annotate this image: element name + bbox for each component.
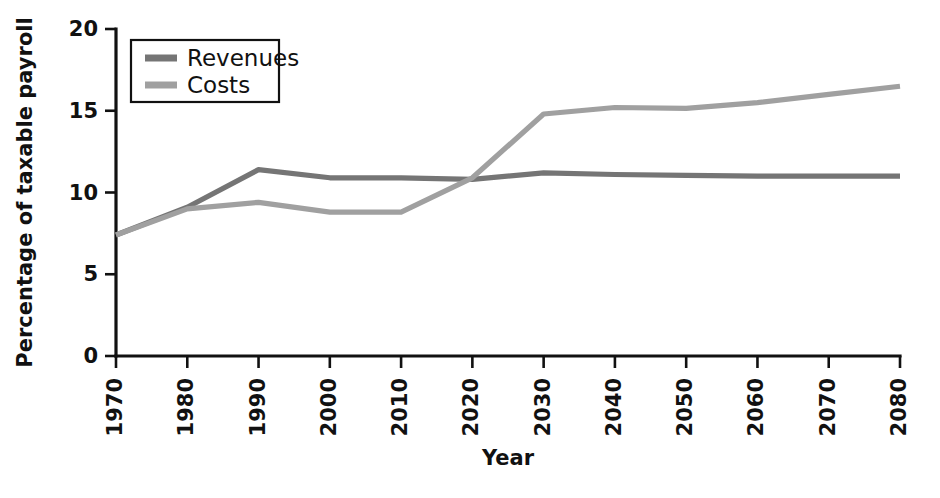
x-tick-label-2080: 2080 xyxy=(887,378,911,436)
x-tick-label-2030: 2030 xyxy=(531,378,555,436)
x-tick-label-1970: 1970 xyxy=(103,378,127,436)
x-tick-label-2050: 2050 xyxy=(673,378,697,436)
x-tick-label-2010: 2010 xyxy=(388,378,412,436)
x-tick-label-2070: 2070 xyxy=(816,378,840,436)
y-tick-label-10: 10 xyxy=(69,181,98,205)
x-tick-label-2020: 2020 xyxy=(459,378,483,436)
chart-legend: RevenuesCosts xyxy=(131,40,299,102)
series-lines xyxy=(116,86,900,235)
y-tick-label-20: 20 xyxy=(69,17,98,41)
x-tick-label-1980: 1980 xyxy=(174,378,198,436)
x-axis-group: 1970198019902000201020202030204020502060… xyxy=(103,356,911,436)
y-tick-label-15: 15 xyxy=(69,99,98,123)
x-axis-ticks: 1970198019902000201020202030204020502060… xyxy=(103,356,911,436)
y-axis-ticks: 05101520 xyxy=(69,17,116,368)
x-tick-label-2040: 2040 xyxy=(602,378,626,436)
y-tick-label-0: 0 xyxy=(83,344,98,368)
line-chart: 05101520 1970198019902000201020202030204… xyxy=(0,0,940,498)
x-tick-label-2060: 2060 xyxy=(744,378,768,436)
series-line-costs xyxy=(116,86,900,235)
y-axis-title: Percentage of taxable payroll xyxy=(13,17,37,367)
y-tick-label-5: 5 xyxy=(83,262,98,286)
y-axis-group: 05101520 xyxy=(69,17,116,368)
legend-label-costs: Costs xyxy=(187,72,250,98)
x-tick-label-2000: 2000 xyxy=(317,378,341,436)
chart-container: 05101520 1970198019902000201020202030204… xyxy=(0,0,940,498)
legend-label-revenues: Revenues xyxy=(187,45,299,71)
x-tick-label-1990: 1990 xyxy=(246,378,270,436)
x-axis-title: Year xyxy=(481,446,535,470)
